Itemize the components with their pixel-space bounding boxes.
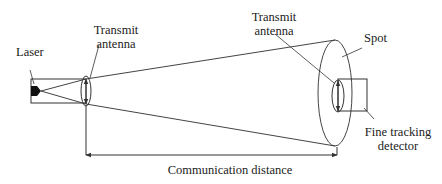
transmit-antenna-left-line2: antenna — [86, 37, 146, 51]
laser-box — [31, 79, 86, 103]
beam-cone — [41, 40, 335, 146]
communication-distance-label: Communication distance — [140, 163, 320, 177]
laser-communication-diagram — [0, 0, 442, 184]
transmit-antenna-right-label: Transmit antenna — [244, 10, 304, 38]
fine-tracking-leader-line — [364, 108, 374, 119]
spot-ellipse — [318, 40, 352, 146]
transmit-antenna-right-line2: antenna — [244, 24, 304, 38]
spot-label: Spot — [364, 31, 387, 45]
transmit-antenna-left-label: Transmit antenna — [86, 23, 146, 51]
fine-tracking-detector-label: Fine tracking detector — [358, 125, 438, 153]
transmit-antenna-left-line1: Transmit — [86, 23, 146, 37]
fine-tracking-line2: detector — [358, 139, 438, 153]
fine-tracking-line1: Fine tracking — [358, 125, 438, 139]
transmit-antenna-right-line1: Transmit — [244, 10, 304, 24]
laser-label: Laser — [16, 45, 44, 59]
communication-distance-dimension — [86, 106, 337, 155]
transmit-antenna-left — [81, 76, 91, 106]
